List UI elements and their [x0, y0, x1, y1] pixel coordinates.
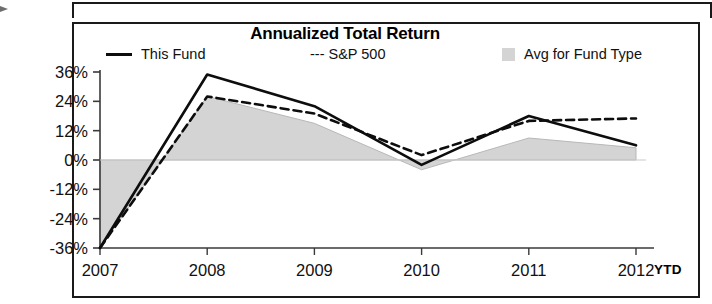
- legend-label-this-fund: This Fund: [141, 46, 205, 62]
- legend-item-this-fund: This Fund: [106, 46, 205, 62]
- top-border-fill: [74, 4, 710, 18]
- left-marker-icon: [0, 6, 8, 12]
- legend-label-avg-fund-type: Avg for Fund Type: [524, 46, 642, 62]
- area-swatch-icon: [502, 48, 515, 61]
- x-axis-ytd-note: YTD: [654, 262, 682, 277]
- chart-title: Annualized Total Return: [150, 24, 540, 44]
- legend-label-sp500: --- S&P 500: [310, 46, 386, 62]
- legend-item-sp500: --- S&P 500: [310, 46, 386, 62]
- solid-line-swatch-icon: [106, 53, 132, 56]
- legend-item-avg-fund-type: Avg for Fund Type: [502, 46, 642, 62]
- chart-legend: This Fund --- S&P 500 Avg for Fund Type: [82, 46, 682, 68]
